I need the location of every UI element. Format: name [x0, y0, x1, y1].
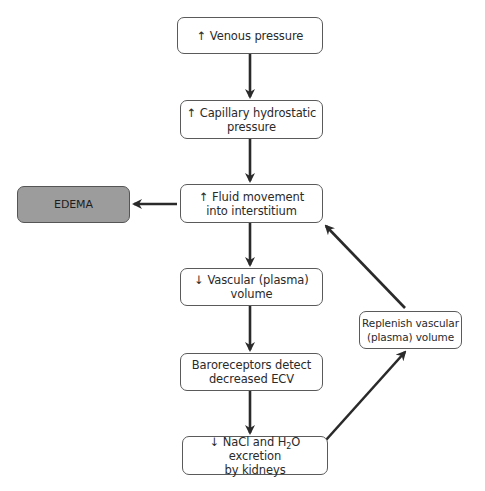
- node-label: EDEMA: [54, 198, 93, 212]
- node-replenish: Replenish vascular (plasma) volume: [359, 311, 462, 349]
- node-nacl-excretion: ↓ NaCl and H2O excretionby kidneys: [182, 436, 328, 475]
- node-capillary-pressure: ↑ Capillary hydrostatic pressure: [180, 100, 323, 139]
- node-label: Baroreceptors detect decreased ECV: [192, 358, 311, 386]
- node-edema: EDEMA: [17, 186, 130, 223]
- node-venous-pressure: ↑ Venous pressure: [177, 17, 323, 54]
- node-baroreceptors: Baroreceptors detect decreased ECV: [180, 353, 323, 391]
- node-vascular-volume: ↓ Vascular (plasma) volume: [180, 268, 323, 306]
- node-label: ↓ Vascular (plasma) volume: [194, 273, 308, 301]
- node-fluid-movement: ↑ Fluid movement into interstitium: [180, 184, 323, 223]
- node-label: ↑ Fluid movement into interstitium: [199, 190, 304, 218]
- node-label: ↑ Venous pressure: [197, 29, 304, 43]
- arrow-nacl-to-replenish: [326, 352, 405, 440]
- node-label: ↑ Capillary hydrostatic pressure: [187, 106, 317, 134]
- arrow-replenish-to-fluid: [326, 226, 405, 308]
- node-label: ↓ NaCl and H2O excretionby kidneys: [183, 435, 327, 477]
- label-line2: by kidneys: [224, 463, 285, 477]
- label-part1: ↓ NaCl and H: [210, 435, 287, 449]
- connector-arrows: [0, 0, 485, 491]
- node-label: Replenish vascular (plasma) volume: [362, 316, 459, 344]
